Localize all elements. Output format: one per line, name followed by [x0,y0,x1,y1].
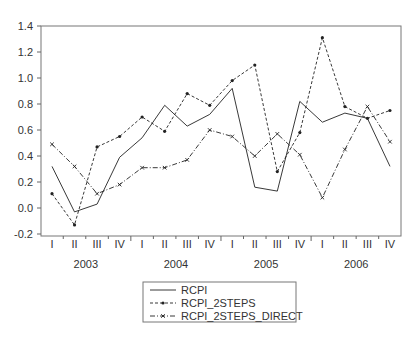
y-tick-label: 1.2 [18,46,33,58]
y-tick-label: 0.8 [18,98,33,110]
data-point-marker [298,153,302,157]
data-point-marker [343,105,346,108]
quarter-label: IV [295,238,306,250]
series-layer [50,36,392,226]
series-line [52,107,390,198]
y-tick-label: 0.2 [18,176,33,188]
quarter-label: IV [114,238,125,250]
legend-marker [161,301,164,304]
data-point-marker [50,192,53,195]
series-rcpi-2steps-direct [50,105,392,200]
legend-label: RCPI_2STEPS_DIRECT [181,310,303,322]
data-point-marker [73,223,76,226]
data-point-marker [343,148,347,152]
data-point-marker [366,117,369,120]
x-axis: IIIIIIIVIIIIIIIVIIIIIIIVIIIIIIIV20032004… [50,236,395,270]
data-point-marker [253,154,257,158]
quarter-label: II [71,238,77,250]
data-point-marker [231,79,234,82]
data-point-marker [73,165,77,169]
series-line [52,88,390,211]
data-point-marker [208,104,211,107]
data-point-marker [388,140,392,144]
data-point-marker [118,183,122,187]
data-point-marker [141,115,144,118]
quarter-label: III [363,238,372,250]
legend: RCPIRCPI_2STEPSRCPI_2STEPS_DIRECT [143,282,303,322]
year-label: 2006 [344,258,368,270]
quarter-label: III [273,238,282,250]
data-point-marker [276,132,280,136]
data-point-marker [95,145,98,148]
data-point-marker [366,105,370,109]
data-point-marker [50,143,54,147]
y-tick-label: 1.4 [18,20,33,32]
quarter-label: III [92,238,101,250]
data-point-marker [163,130,166,133]
quarter-label: II [162,238,168,250]
data-point-marker [118,135,121,138]
y-tick-label: 0.0 [18,202,33,214]
year-label: 2003 [74,258,98,270]
y-tick-label: 0.6 [18,124,33,136]
quarter-label: IV [205,238,216,250]
year-label: 2004 [164,258,188,270]
quarter-label: IV [385,238,396,250]
line-chart: -0.20.00.20.40.60.81.01.21.4 IIIIIIIVIII… [0,0,417,339]
quarter-label: I [141,238,144,250]
data-point-marker [230,135,234,139]
y-tick-label: 1.0 [18,72,33,84]
quarter-label: II [252,238,258,250]
quarter-label: I [50,238,53,250]
legend-label: RCPI_2STEPS [181,297,256,309]
series-rcpi [52,88,390,211]
year-label: 2005 [254,258,278,270]
y-axis: -0.20.00.20.40.60.81.01.21.4 [14,20,41,240]
series-line [52,38,390,225]
data-point-marker [298,131,301,134]
data-point-marker [321,36,324,39]
data-point-marker [186,92,189,95]
quarter-label: I [321,238,324,250]
data-point-marker [388,109,391,112]
y-tick-label: -0.2 [14,228,33,240]
data-point-marker [321,196,325,200]
quarter-label: I [231,238,234,250]
data-point-marker [95,192,99,196]
data-point-marker [276,170,279,173]
y-tick-label: 0.4 [18,150,33,162]
data-point-marker [253,63,256,66]
legend-label: RCPI [181,284,207,296]
quarter-label: III [183,238,192,250]
series-rcpi-2steps [50,36,391,226]
quarter-label: II [342,238,348,250]
